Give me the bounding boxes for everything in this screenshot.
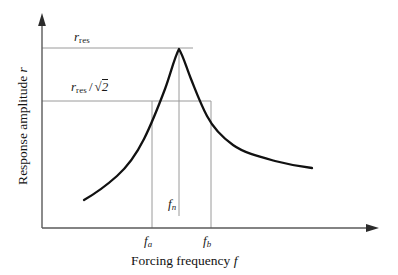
half-power-subscript: res	[76, 85, 87, 95]
peak-amplitude-subscript: res	[79, 35, 90, 45]
y-axis-title: Response amplitude r	[15, 46, 31, 206]
radical-bar	[102, 79, 109, 80]
resonance-curve-figure	[0, 0, 398, 275]
x-axis-arrow-icon	[366, 224, 379, 232]
division-slash: /	[87, 79, 95, 94]
resonance-response-curve	[84, 49, 312, 200]
upper-frequency-subscript: b	[207, 239, 211, 249]
lower-half-power-frequency-label: fa	[144, 233, 152, 249]
peak-amplitude-label: rres	[74, 29, 90, 45]
half-power-amplitude-label: rres/√2	[71, 78, 108, 95]
radicand: 2	[102, 79, 109, 94]
y-axis-title-symbol: r	[15, 67, 30, 72]
figure-canvas: rres rres/√2 fn fa fb Forcing frequency …	[0, 0, 398, 275]
upper-half-power-frequency-label: fb	[203, 233, 211, 249]
x-axis-title-text: Forcing frequency	[131, 253, 230, 268]
natural-frequency-subscript: n	[172, 202, 176, 212]
lower-frequency-subscript: a	[148, 239, 152, 249]
y-axis-arrow-icon	[38, 13, 46, 26]
square-root-icon: √2	[95, 78, 109, 95]
x-axis-title: Forcing frequency f	[131, 253, 237, 269]
y-axis-title-text: Response amplitude	[15, 76, 30, 185]
natural-frequency-label: fn	[168, 196, 176, 212]
x-axis-title-symbol: f	[234, 253, 238, 268]
